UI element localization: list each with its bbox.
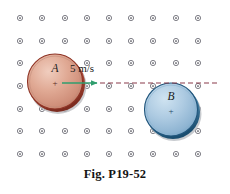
- field-dot-center: [152, 85, 154, 87]
- figure-caption: Fig. P19-52: [0, 167, 230, 182]
- field-dot-center: [86, 17, 88, 19]
- field-dot-center: [86, 108, 88, 110]
- field-dot-center: [108, 108, 110, 110]
- field-dot-center: [19, 108, 21, 110]
- field-dot-center: [19, 62, 21, 64]
- field-dot-center: [108, 130, 110, 132]
- field-dot-center: [64, 17, 66, 19]
- field-dot-center: [64, 40, 66, 42]
- field-dot-center: [197, 85, 199, 87]
- field-dot-center: [152, 153, 154, 155]
- field-dot-center: [130, 17, 132, 19]
- field-dot-center: [86, 130, 88, 132]
- field-dot-center: [19, 130, 21, 132]
- field-dot-center: [41, 153, 43, 155]
- field-dot-center: [64, 130, 66, 132]
- field-dot-center: [175, 40, 177, 42]
- disk-a-label: A: [50, 62, 59, 74]
- field-dot-center: [175, 17, 177, 19]
- figure-canvas: A + B +: [0, 0, 230, 194]
- field-dot-center: [108, 17, 110, 19]
- field-dot-center: [108, 153, 110, 155]
- field-dot-center: [197, 153, 199, 155]
- field-dot-center: [130, 40, 132, 42]
- field-dot-center: [108, 62, 110, 64]
- figure-container: A + B + 5 m/s Fig. P19-52: [0, 0, 230, 194]
- field-dot-center: [152, 40, 154, 42]
- field-dot-center: [130, 62, 132, 64]
- field-dot-center: [19, 153, 21, 155]
- field-dot-center: [197, 130, 199, 132]
- disk-b-center-mark: +: [168, 106, 173, 116]
- velocity-label: 5 m/s: [70, 62, 94, 74]
- field-dot-center: [108, 85, 110, 87]
- field-dot-center: [19, 40, 21, 42]
- field-dot-center: [130, 85, 132, 87]
- disk-a-center-mark: +: [52, 78, 57, 88]
- field-dot-center: [175, 153, 177, 155]
- disk-b-label: B: [167, 90, 174, 102]
- field-dot-center: [197, 40, 199, 42]
- field-dot-center: [130, 153, 132, 155]
- field-dot-center: [41, 130, 43, 132]
- field-dot-center: [19, 85, 21, 87]
- field-dot-center: [197, 62, 199, 64]
- field-dot-center: [86, 153, 88, 155]
- field-dot-center: [175, 62, 177, 64]
- field-dot-center: [152, 62, 154, 64]
- field-dot-center: [64, 153, 66, 155]
- field-dot-center: [197, 17, 199, 19]
- field-dot-center: [41, 40, 43, 42]
- field-dot-center: [108, 40, 110, 42]
- field-dot-center: [41, 17, 43, 19]
- field-dot-center: [152, 17, 154, 19]
- field-dot-center: [86, 40, 88, 42]
- field-dot-center: [130, 108, 132, 110]
- field-dot-center: [130, 130, 132, 132]
- field-dot-center: [19, 17, 21, 19]
